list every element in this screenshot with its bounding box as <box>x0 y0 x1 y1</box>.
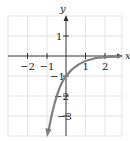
y-axis-label: y <box>59 3 66 14</box>
x-tick-label: −2 <box>20 61 35 72</box>
graph: x y −2 −1 1 2 1 −1 −2 −3 <box>0 0 130 141</box>
x-axis-label: x <box>125 50 130 61</box>
x-tick-label: 2 <box>102 61 108 72</box>
y-tick-label: −3 <box>57 111 72 122</box>
y-tick-label: 1 <box>56 31 62 42</box>
